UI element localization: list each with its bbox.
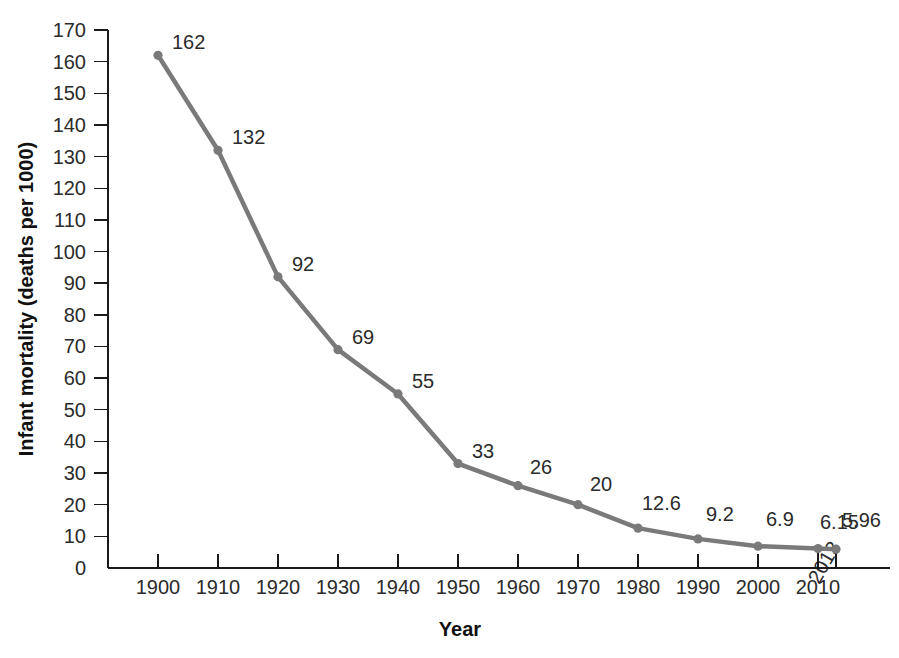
data-point xyxy=(393,389,402,398)
x-tick-label: 1910 xyxy=(196,576,241,598)
data-point xyxy=(573,500,582,509)
y-tick-label: 60 xyxy=(64,367,86,389)
x-tick-label: 1980 xyxy=(616,576,661,598)
x-axis-title: Year xyxy=(439,618,481,640)
y-tick-label: 130 xyxy=(53,146,86,168)
y-tick-label: 90 xyxy=(64,272,86,294)
data-value-label: 162 xyxy=(172,31,205,53)
data-value-label: 5.96 xyxy=(842,509,881,531)
data-value-label: 132 xyxy=(232,126,265,148)
data-point xyxy=(693,534,702,543)
x-tick-label: 1920 xyxy=(256,576,301,598)
infant-mortality-chart: 0102030405060708090100110120130140150160… xyxy=(0,0,899,658)
data-value-label: 9.2 xyxy=(706,503,734,525)
data-value-label: 55 xyxy=(412,370,434,392)
y-tick-label: 140 xyxy=(53,114,86,136)
x-tick-label: 2000 xyxy=(736,576,781,598)
y-tick-label: 100 xyxy=(53,241,86,263)
y-tick-label: 10 xyxy=(64,525,86,547)
y-tick-label: 40 xyxy=(64,430,86,452)
data-value-labels: 16213292695533262012.69.26.96.155.96 xyxy=(172,31,881,532)
y-tick-label: 170 xyxy=(53,19,86,41)
x-tick-label: 1930 xyxy=(316,576,361,598)
data-value-label: 12.6 xyxy=(642,492,681,514)
data-value-label: 6.9 xyxy=(766,508,794,530)
y-tick-label: 120 xyxy=(53,177,86,199)
data-value-label: 69 xyxy=(352,326,374,348)
data-point xyxy=(453,459,462,468)
data-value-label: 33 xyxy=(472,440,494,462)
y-axis-ticks: 0102030405060708090100110120130140150160… xyxy=(53,19,108,579)
chart-canvas: 0102030405060708090100110120130140150160… xyxy=(0,0,899,658)
data-point xyxy=(813,544,822,553)
x-tick-label: 1900 xyxy=(136,576,181,598)
x-tick-label: 1990 xyxy=(676,576,721,598)
y-tick-label: 30 xyxy=(64,462,86,484)
data-point xyxy=(633,524,642,533)
data-value-label: 20 xyxy=(590,473,612,495)
data-point xyxy=(273,272,282,281)
y-tick-label: 80 xyxy=(64,304,86,326)
y-tick-label: 50 xyxy=(64,399,86,421)
data-point xyxy=(213,146,222,155)
y-tick-label: 20 xyxy=(64,494,86,516)
y-axis-title: Infant mortality (deaths per 1000) xyxy=(15,142,37,457)
y-tick-label: 110 xyxy=(54,209,86,231)
y-tick-label: 70 xyxy=(64,335,86,357)
x-tick-label: 1940 xyxy=(376,576,421,598)
data-value-label: 92 xyxy=(292,253,314,275)
data-point xyxy=(753,542,762,551)
data-point xyxy=(333,345,342,354)
y-tick-label: 150 xyxy=(53,82,86,104)
y-tick-label: 160 xyxy=(53,51,86,73)
data-point xyxy=(153,51,162,60)
y-tick-label: 0 xyxy=(75,557,86,579)
data-point xyxy=(513,481,522,490)
x-tick-label: 1960 xyxy=(496,576,541,598)
data-point xyxy=(831,545,840,554)
x-tick-label: 1970 xyxy=(556,576,601,598)
x-tick-label: 1950 xyxy=(436,576,481,598)
data-value-label: 26 xyxy=(530,456,552,478)
